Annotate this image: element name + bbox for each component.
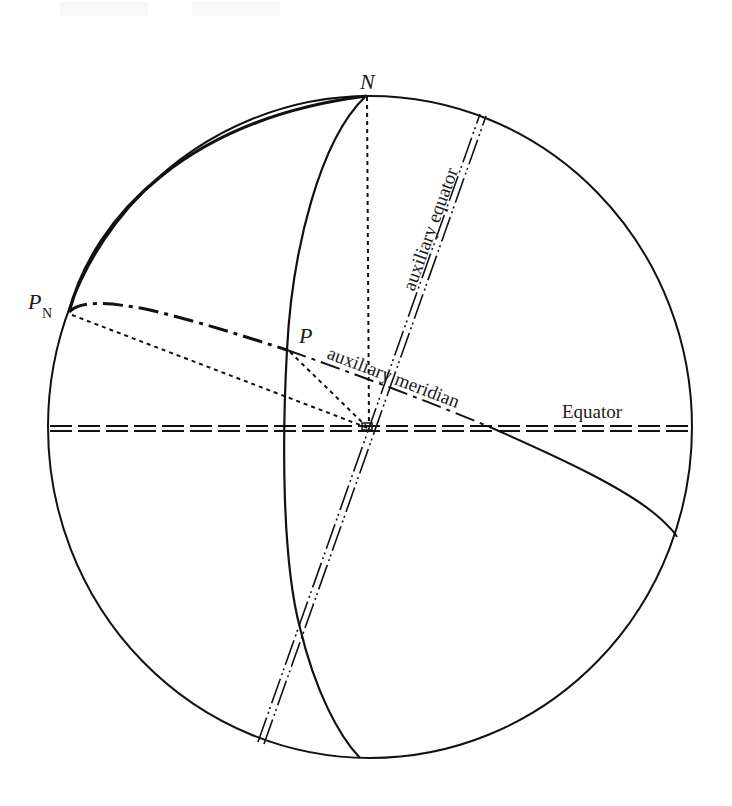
- label-pole-n: P N: [27, 289, 52, 321]
- auxiliary-meridian-dashdot: [69, 304, 287, 351]
- label-north-pole: N: [359, 69, 376, 94]
- meridian-n-through-p: [284, 97, 365, 758]
- svg-text:P: P: [27, 289, 41, 314]
- label-equator: Equator: [562, 401, 623, 422]
- label-auxiliary-meridian: auxiliary meridian: [325, 342, 464, 412]
- svg-text:N: N: [42, 306, 52, 321]
- pn-to-center: [72, 315, 368, 428]
- celestial-sphere-diagram: N P N P auxiliary meridian auxiliary equ…: [0, 0, 732, 806]
- auxiliary-meridian-solid: [492, 428, 677, 537]
- great-circle-arc-pn-n: [69, 96, 367, 312]
- label-point-p: P: [298, 323, 312, 348]
